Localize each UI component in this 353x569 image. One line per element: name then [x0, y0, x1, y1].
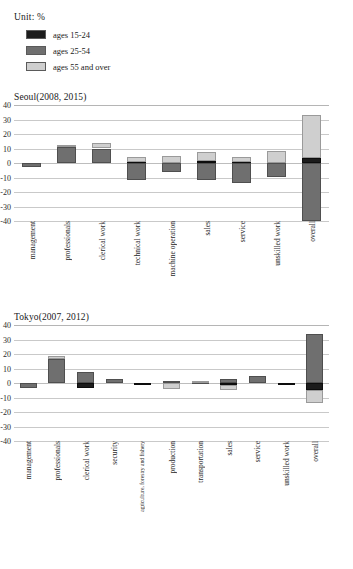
legend-label-young: ages 15-24	[53, 30, 90, 40]
chart-tokyo: Tokyo(2007, 2012) 403020100-10-20-30-40 …	[0, 312, 353, 541]
bar-security	[106, 325, 123, 441]
legend-swatch-icon-prime	[26, 46, 46, 55]
bar-segment-senior	[48, 356, 65, 359]
x-axis-label: unskilled work	[282, 441, 291, 486]
plot-wrap-seoul: 403020100-10-20-30-40	[14, 105, 353, 221]
bar-segment-prime	[232, 163, 251, 183]
bar-segment-prime	[306, 334, 323, 383]
bar-segment-prime	[22, 163, 41, 167]
legend-label-senior: ages 55 and over	[53, 62, 110, 72]
y-tick-label--20: -20	[0, 188, 11, 197]
y-tick-label-0: 0	[7, 379, 11, 388]
bar-segment-prime	[162, 163, 181, 172]
chart-title-tokyo: Tokyo(2007, 2012)	[14, 312, 353, 322]
bar-machine-operation	[162, 105, 181, 221]
bar-sales	[220, 325, 237, 441]
bar-segment-senior	[162, 156, 181, 163]
bar-segment-senior	[302, 115, 321, 158]
bar-professionals	[48, 325, 65, 441]
x-axis-label: overall	[311, 441, 320, 462]
bar-clerical-work	[92, 105, 111, 221]
bar-segment-senior	[220, 385, 237, 389]
bar-segment-prime	[77, 372, 94, 383]
y-tick-label-0: 0	[7, 159, 11, 168]
y-tick-label-30: 30	[3, 335, 11, 344]
legend-item-senior: ages 55 and over	[26, 59, 110, 74]
x-axis-label: service	[238, 221, 247, 242]
bar-production	[163, 325, 180, 441]
x-axis-label: production	[168, 441, 177, 474]
x-axis-label: management	[28, 221, 37, 259]
bar-segment-prime	[197, 163, 216, 180]
x-axis-labels-tokyo: managementprofessionalsclerical worksecu…	[14, 441, 329, 541]
bar-segment-prime	[267, 163, 286, 177]
bar-service	[232, 105, 251, 221]
bar-agriculture-forestry-and-fishery	[134, 325, 151, 441]
legend-swatch-icon-senior	[26, 62, 46, 71]
bar-segment-prime	[106, 379, 123, 383]
bar-segment-prime	[92, 149, 111, 164]
bar-segment-senior	[306, 390, 323, 403]
x-axis-label: security	[110, 441, 119, 465]
y-tick-label--20: -20	[0, 408, 11, 417]
x-axis-labels-seoul: managementprofessionalsclerical worktech…	[14, 221, 329, 307]
y-tick-label--10: -10	[0, 393, 11, 402]
bar-overall	[302, 105, 321, 221]
y-tick-label-20: 20	[3, 350, 11, 359]
unit-label: Unit: %	[14, 12, 45, 22]
bar-sales	[197, 105, 216, 221]
bar-segment-young	[134, 383, 151, 385]
figure-page: Unit: % ages 15-24 ages 25-54 ages 55 an…	[0, 0, 353, 569]
bar-segment-senior	[163, 383, 180, 389]
bars-layer	[14, 325, 329, 441]
x-axis-label: sales	[203, 221, 212, 236]
bar-unskilled-work	[278, 325, 295, 441]
chart-seoul: Seoul(2008, 2015) 403020100-10-20-30-40 …	[0, 92, 353, 307]
y-tick-label--10: -10	[0, 173, 11, 182]
chart-title-seoul: Seoul(2008, 2015)	[14, 92, 353, 102]
x-axis-label: professionals	[53, 441, 62, 481]
y-tick-label-20: 20	[3, 130, 11, 139]
bar-segment-prime	[220, 379, 237, 383]
y-tick-label--30: -30	[0, 202, 11, 211]
y-tick-label--30: -30	[0, 422, 11, 431]
x-axis-label: service	[253, 441, 262, 462]
legend-swatch-icon-young	[26, 30, 46, 39]
x-axis-label: technical work	[133, 221, 142, 265]
bars-layer	[14, 105, 329, 221]
y-tick-label-40: 40	[3, 101, 11, 110]
bar-segment-senior	[232, 157, 251, 162]
bar-segment-prime	[48, 359, 65, 383]
bar-segment-young	[77, 383, 94, 388]
y-tick-label--40: -40	[0, 217, 11, 226]
bar-segment-prime	[302, 163, 321, 221]
bar-professionals	[57, 105, 76, 221]
legend-item-young: ages 15-24	[26, 27, 110, 42]
bar-service	[249, 325, 266, 441]
bar-clerical-work	[77, 325, 94, 441]
x-axis-label: machine operation	[168, 221, 177, 277]
bar-management	[22, 105, 41, 221]
y-tick-label--40: -40	[0, 437, 11, 446]
bar-segment-prime	[57, 147, 76, 163]
bar-segment-young	[306, 383, 323, 390]
plot-wrap-tokyo: 403020100-10-20-30-40	[14, 325, 353, 441]
legend: ages 15-24 ages 25-54 ages 55 and over	[26, 27, 110, 75]
bar-segment-prime	[20, 383, 37, 388]
x-axis-label: sales	[225, 441, 234, 456]
bar-segment-senior	[192, 381, 209, 383]
bar-segment-senior	[127, 157, 146, 162]
bar-transportation	[192, 325, 209, 441]
legend-label-prime: ages 25-54	[53, 46, 90, 56]
x-axis-label: professionals	[63, 221, 72, 261]
x-axis-label: agriculture, forestry and fishery	[139, 441, 145, 512]
x-axis-label: unskilled work	[273, 221, 282, 266]
y-tick-label-40: 40	[3, 321, 11, 330]
plot-area-seoul: 403020100-10-20-30-40	[14, 105, 329, 221]
y-tick-label-10: 10	[3, 144, 11, 153]
x-axis-label: management	[24, 441, 33, 479]
legend-item-prime: ages 25-54	[26, 43, 110, 58]
x-axis-label: transportation	[196, 441, 205, 483]
bar-segment-senior	[267, 151, 286, 163]
x-axis-label: overall	[308, 221, 317, 242]
